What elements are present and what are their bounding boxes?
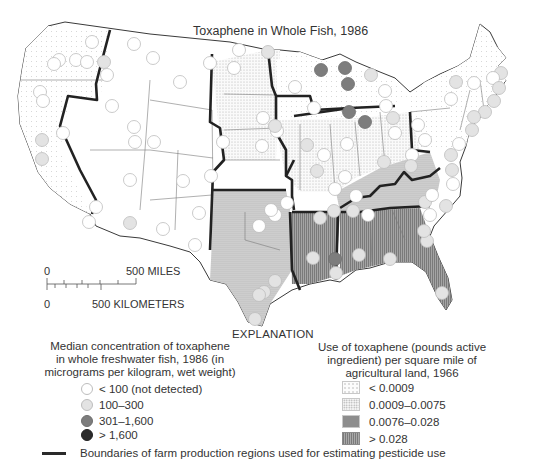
dark-hatch-pattern-swatch — [342, 432, 360, 445]
sampling-site-marker — [228, 62, 241, 75]
sampling-site-marker — [412, 119, 425, 132]
class-label: < 0.0009 — [369, 382, 414, 394]
sampling-site-marker — [440, 200, 453, 213]
sampling-site-marker — [148, 136, 161, 149]
sampling-site-marker — [453, 138, 466, 151]
sampling-site-marker — [314, 212, 327, 225]
class-label: < 100 (not detected) — [99, 383, 202, 395]
sampling-site-marker — [124, 217, 137, 230]
circle-black-icon — [81, 429, 93, 441]
scale-km-zero: 0 — [44, 298, 50, 310]
sampling-site-marker — [389, 127, 402, 140]
sampling-site-marker — [177, 175, 190, 188]
sampling-site-marker — [329, 253, 342, 266]
sampling-site-marker — [318, 149, 331, 162]
circle-gray-icon — [81, 415, 93, 427]
sampling-site-marker — [384, 253, 397, 266]
sampling-site-marker — [106, 100, 119, 113]
sampling-site-marker — [329, 183, 342, 196]
sampling-site-marker — [405, 160, 418, 173]
sampling-site-marker — [83, 216, 96, 229]
use-class-2: 0.0009–0.0075 — [342, 398, 446, 411]
sampling-site-marker — [378, 156, 391, 169]
class-label: > 0.028 — [369, 433, 408, 445]
sampling-site-marker — [101, 69, 114, 82]
concentration-legend-heading: Median concentration of toxaphene in who… — [40, 340, 240, 379]
sampling-site-marker — [189, 239, 202, 252]
scale-miles-label: 500 MILES — [126, 265, 180, 277]
use-class-3: 0.0076–0.028 — [342, 415, 439, 428]
sampling-site-marker — [339, 171, 352, 184]
sampling-site-marker — [193, 207, 206, 220]
heading-line: Median concentration of toxaphene — [40, 340, 240, 353]
sampling-site-marker — [90, 201, 103, 214]
sampling-site-marker — [488, 95, 501, 108]
sampling-site-marker — [350, 190, 363, 203]
sampling-site-marker — [362, 209, 375, 222]
sampling-site-marker — [365, 69, 378, 82]
sampling-site-marker — [128, 38, 141, 51]
sampling-site-marker — [307, 252, 320, 265]
circle-white-icon — [81, 383, 93, 395]
sampling-site-marker — [256, 140, 269, 153]
sampling-site-marker — [418, 225, 431, 238]
circle-light-gray-icon — [81, 399, 93, 411]
heading-line: micrograms per kilogram, wet weight) — [40, 366, 240, 379]
concentration-class-4: > 1,600 — [81, 429, 138, 441]
class-label: 0.0076–0.028 — [369, 416, 439, 428]
class-label: 301–1,600 — [99, 415, 153, 427]
sampling-site-marker — [450, 76, 463, 89]
sampling-site-marker — [466, 124, 479, 137]
sampling-site-marker — [37, 95, 50, 108]
sampling-site-marker — [343, 106, 356, 119]
fine-dot-pattern-swatch — [342, 398, 360, 411]
sampling-site-marker — [447, 178, 460, 191]
use-legend-heading: Use of toxaphene (pounds active ingredie… — [312, 341, 492, 380]
sampling-site-marker — [387, 112, 400, 125]
sampling-site-marker — [468, 77, 481, 90]
sampling-site-marker — [353, 249, 366, 262]
sampling-site-marker — [436, 287, 449, 300]
sampling-site-marker — [419, 134, 432, 147]
concentration-class-3: 301–1,600 — [81, 415, 153, 427]
class-label: > 1,600 — [99, 429, 138, 441]
sampling-site-marker — [426, 189, 439, 202]
scale-km-label: 500 KILOMETERS — [92, 298, 184, 310]
sampling-site-marker — [301, 139, 314, 152]
sampling-site-marker — [446, 164, 459, 177]
sampling-site-marker — [129, 136, 142, 149]
sampling-site-marker — [48, 58, 61, 71]
heading-line: ingredient) per square mile of — [312, 354, 492, 367]
sampling-site-marker — [379, 85, 392, 98]
sampling-site-marker — [57, 127, 70, 140]
heading-line: agricultural land, 1966 — [312, 367, 492, 380]
explanation-heading: EXPLANATION — [232, 328, 314, 340]
sampling-site-marker — [253, 289, 266, 302]
concentration-class-2: 100–300 — [81, 399, 144, 411]
sampling-site-marker — [281, 197, 294, 210]
sampling-site-marker — [86, 36, 99, 49]
sampling-site-marker — [289, 81, 302, 94]
sampling-site-marker — [262, 46, 275, 59]
sampling-site-marker — [311, 165, 324, 178]
sampling-site-marker — [424, 209, 437, 222]
sampling-site-marker — [98, 56, 111, 69]
sampling-site-marker — [347, 205, 360, 218]
sampling-site-marker — [36, 134, 49, 147]
boundary-label: Boundaries of farm production regions us… — [80, 447, 446, 459]
sampling-site-marker — [468, 111, 481, 124]
sampling-site-marker — [315, 64, 328, 77]
sampling-site-marker — [217, 136, 230, 149]
sampling-site-marker — [493, 82, 506, 95]
sampling-site-marker — [81, 56, 94, 69]
sampling-site-marker — [36, 153, 49, 166]
sampling-site-marker — [445, 93, 458, 106]
sampling-site-marker — [445, 149, 458, 162]
boundary-legend: Boundaries of farm production regions us… — [42, 447, 446, 459]
use-class-1: < 0.0009 — [342, 381, 414, 394]
sampling-site-marker — [233, 44, 246, 57]
thick-line-icon — [42, 452, 66, 455]
sampling-site-marker — [147, 52, 160, 65]
heading-line: Use of toxaphene (pounds active — [312, 341, 492, 354]
dense-stipple-pattern-swatch — [342, 415, 360, 428]
